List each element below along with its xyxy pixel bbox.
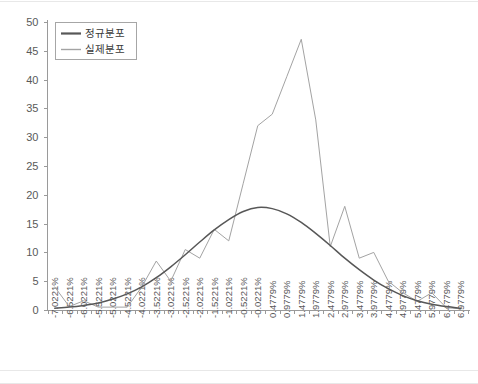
x-tick-label: -3.0221% <box>165 277 176 318</box>
x-tick-label: 1.9779% <box>310 280 321 318</box>
x-tick-label: 3.4779% <box>354 280 365 318</box>
x-tick-label: -0.0221% <box>252 277 263 318</box>
x-tick-label: 6.4779% <box>441 280 452 318</box>
y-tick-label: 35 <box>26 102 38 114</box>
x-tick-label: 2.9779% <box>339 280 350 318</box>
x-tick-label: 2.4779% <box>325 280 336 318</box>
y-tick-label: 50 <box>26 16 38 28</box>
x-tick-label: -2.0221% <box>194 277 205 318</box>
chart-container: 05101520253035404550 -7.0221%-6.5221%-6.… <box>0 0 478 384</box>
x-tick-label: -2.5221% <box>180 277 191 318</box>
x-tick-label: 4.9779% <box>397 280 408 318</box>
x-tick-label: -6.0221% <box>78 277 89 318</box>
x-tick-label: 3.9779% <box>368 280 379 318</box>
x-tick-label: 4.4779% <box>383 280 394 318</box>
y-tick-label: 5 <box>32 275 38 287</box>
x-tick-label: -7.0221% <box>49 277 60 318</box>
x-axis-tick-labels: -7.0221%-6.5221%-6.0221%-5.5221%-5.0221%… <box>49 277 466 318</box>
x-tick-label: 0.9779% <box>281 280 292 318</box>
y-tick-label: 30 <box>26 131 38 143</box>
x-tick-label: 0.4779% <box>267 280 278 318</box>
y-tick-label: 25 <box>26 160 38 172</box>
x-tick-label: -6.5221% <box>64 277 75 318</box>
x-tick-label: -3.5221% <box>151 277 162 318</box>
chart-legend[interactable]: 정규분포 실제분포 <box>56 23 137 60</box>
legend-label-normal: 정규분포 <box>85 27 125 39</box>
x-tick-label: 6.9779% <box>455 280 466 318</box>
y-tick-label: 40 <box>26 74 38 86</box>
y-tick-label: 0 <box>32 304 38 316</box>
x-tick-label: 1.4779% <box>296 280 307 318</box>
y-tick-label: 45 <box>26 45 38 57</box>
y-tick-label: 15 <box>26 218 38 230</box>
x-tick-label: -4.0221% <box>136 277 147 318</box>
y-tick-label: 20 <box>26 189 38 201</box>
x-tick-label: -1.0221% <box>223 277 234 318</box>
x-tick-label: -1.5221% <box>209 277 220 318</box>
y-tick-label: 10 <box>26 246 38 258</box>
x-tick-label: -5.5221% <box>93 277 104 318</box>
x-tick-label: 5.9779% <box>426 280 437 318</box>
x-tick-label: -0.5221% <box>238 277 249 318</box>
x-tick-label: -4.5221% <box>122 277 133 318</box>
distribution-line-chart: 05101520253035404550 -7.0221%-6.5221%-6.… <box>0 0 478 384</box>
legend-label-actual: 실제분포 <box>85 43 125 55</box>
